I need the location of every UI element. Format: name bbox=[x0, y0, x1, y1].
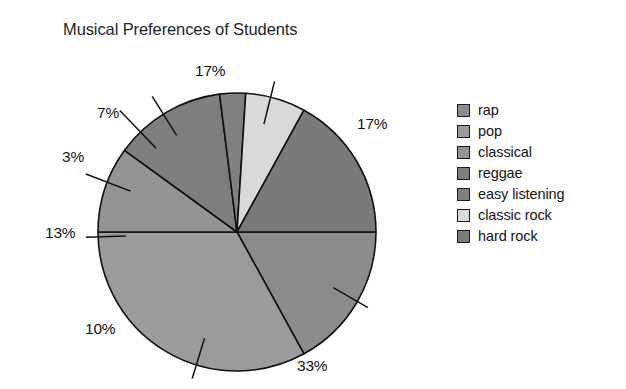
legend-swatch-icon bbox=[457, 125, 470, 138]
legend-item-pop[interactable]: pop bbox=[457, 122, 564, 141]
legend-item-label: pop bbox=[478, 124, 502, 139]
legend-swatch-icon bbox=[457, 167, 470, 180]
pct-label-hard-rock: 17% bbox=[195, 62, 225, 80]
pct-label-classic-rock: 7% bbox=[97, 104, 119, 122]
legend-item-hard-rock[interactable]: hard rock bbox=[457, 227, 564, 246]
legend-swatch-icon bbox=[457, 209, 470, 222]
legend-swatch-icon bbox=[457, 104, 470, 117]
legend-item-label: hard rock bbox=[478, 229, 538, 244]
legend-item-easy-listening[interactable]: easy listening bbox=[457, 185, 564, 204]
legend-item-label: reggae bbox=[478, 166, 523, 181]
pct-label-rap: 17% bbox=[357, 115, 387, 133]
legend-item-reggae[interactable]: reggae bbox=[457, 164, 564, 183]
legend-item-rap[interactable]: rap bbox=[457, 101, 564, 120]
legend-swatch-icon bbox=[457, 230, 470, 243]
legend-item-label: rap bbox=[478, 103, 499, 118]
pct-label-pop: 33% bbox=[297, 357, 327, 375]
pie-slices-group bbox=[98, 93, 376, 371]
legend-item-classical[interactable]: classical bbox=[457, 143, 564, 162]
pct-label-classical: 10% bbox=[85, 320, 115, 338]
legend-swatch-icon bbox=[457, 146, 470, 159]
legend-item-label: easy listening bbox=[478, 187, 564, 202]
pct-label-reggae: 13% bbox=[45, 224, 75, 242]
pie-chart-figure: Musical Preferences of Students 17% 17% … bbox=[0, 0, 626, 389]
pct-label-easy-listening: 3% bbox=[62, 148, 84, 166]
legend-item-classic-rock[interactable]: classic rock bbox=[457, 206, 564, 225]
legend-item-label: classic rock bbox=[478, 208, 552, 223]
legend-item-label: classical bbox=[478, 145, 532, 160]
legend: rappopclassicalreggaeeasy listeningclass… bbox=[457, 101, 564, 246]
legend-swatch-icon bbox=[457, 188, 470, 201]
